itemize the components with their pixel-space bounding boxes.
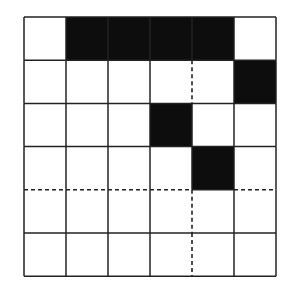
filled-cell xyxy=(192,17,234,60)
filled-cell xyxy=(108,17,150,60)
filled-cell xyxy=(66,17,108,60)
grid-diagram xyxy=(0,0,293,292)
filled-cell xyxy=(150,17,192,60)
filled-cell xyxy=(192,147,234,190)
filled-cell xyxy=(150,103,192,146)
filled-cell xyxy=(234,60,276,103)
